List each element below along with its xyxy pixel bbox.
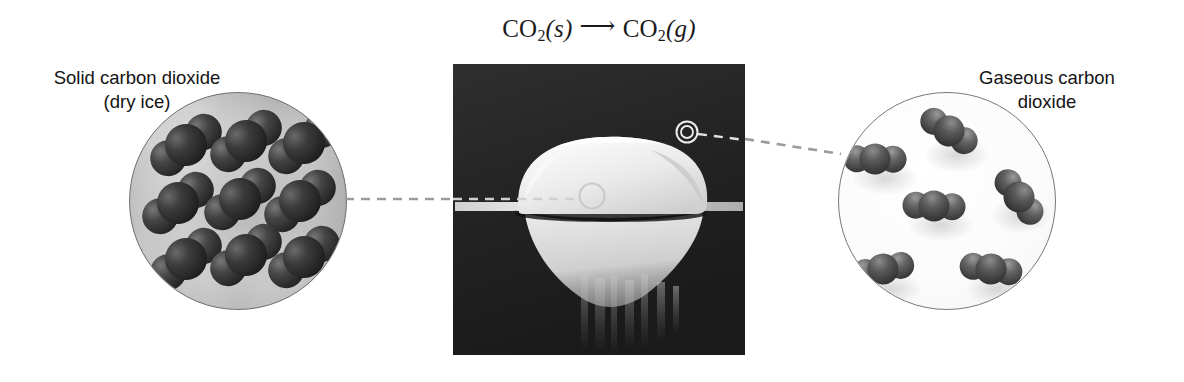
product-state: (g) xyxy=(666,15,696,42)
solid-lattice-graphic xyxy=(130,93,346,309)
equation-reactant: CO2(s) xyxy=(502,15,572,42)
sublimation-figure: CO2(s)⟶CO2(g) Solid carbon dioxide (dry … xyxy=(0,0,1184,382)
caption-gas-line1: Gaseous carbon xyxy=(912,66,1182,90)
caption-solid-line1: Solid carbon dioxide xyxy=(2,66,272,90)
reactant-subscript: 2 xyxy=(537,27,545,44)
reactant-state: (s) xyxy=(546,15,573,42)
reaction-equation: CO2(s)⟶CO2(g) xyxy=(453,14,745,45)
inset-gaseous-carbon-dioxide xyxy=(838,92,1056,310)
inset-solid-carbon-dioxide xyxy=(129,92,347,310)
dry-ice-photo-graphic xyxy=(453,64,745,355)
leader-line-gas-graphic xyxy=(745,132,841,162)
reaction-arrow-icon: ⟶ xyxy=(580,11,616,40)
leader-line-gas xyxy=(745,132,841,162)
leader-line-solid-graphic xyxy=(345,192,455,206)
equation-product: CO2(g) xyxy=(623,15,696,42)
leader-line-solid xyxy=(345,192,455,206)
dry-ice-photograph xyxy=(453,64,745,355)
product-subscript: 2 xyxy=(658,27,666,44)
product-formula: CO xyxy=(623,15,658,42)
reactant-formula: CO xyxy=(502,15,537,42)
gas-molecules-graphic xyxy=(839,93,1055,309)
